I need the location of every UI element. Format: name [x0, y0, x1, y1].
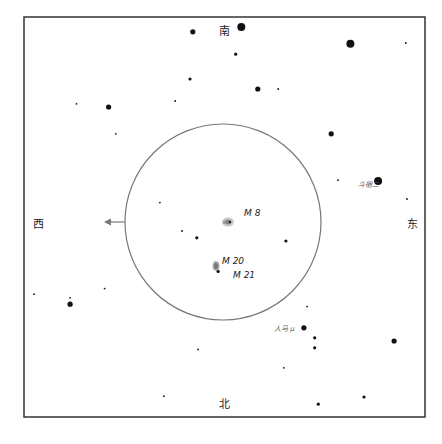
chart-frame: [24, 17, 425, 417]
direction-east: 东: [407, 218, 418, 231]
star: [237, 23, 245, 31]
star: [195, 236, 198, 239]
star: [329, 131, 334, 136]
star: [313, 336, 316, 339]
star: [159, 202, 161, 204]
star-label-sgr-mu: 人马 μ: [274, 325, 295, 333]
star: [313, 346, 316, 349]
star: [306, 306, 308, 308]
star: [188, 77, 191, 80]
direction-south: 南: [219, 25, 230, 38]
star: [181, 230, 183, 232]
direction-north: 北: [219, 398, 230, 411]
star: [406, 198, 408, 200]
star: [115, 133, 117, 135]
star: [190, 29, 195, 34]
m20-nebula: [213, 261, 220, 271]
star: [106, 104, 111, 109]
star-label-dou-su-er: 斗宿二: [358, 181, 380, 189]
star: [174, 100, 176, 102]
star: [69, 297, 71, 299]
star: [163, 395, 165, 397]
star: [337, 179, 339, 181]
star: [68, 302, 73, 307]
m21-label: M 21: [233, 270, 255, 280]
direction-west: 西: [33, 218, 44, 231]
star: [392, 338, 397, 343]
star-chart: M 8 M 20 M 21 斗宿二 人马 μ 南 北 西 东: [0, 0, 442, 444]
m20-label: M 20: [222, 256, 244, 266]
star: [234, 53, 237, 56]
star: [197, 349, 199, 351]
star: [362, 395, 365, 398]
m8-label: M 8: [244, 208, 261, 218]
star: [284, 239, 287, 242]
m8-nebula: [222, 218, 234, 227]
star: [277, 88, 279, 90]
star: [76, 103, 78, 105]
star: [104, 288, 106, 290]
star: [317, 403, 320, 406]
star: [33, 293, 35, 295]
star: [255, 86, 260, 91]
star: [346, 40, 354, 48]
star: [283, 367, 285, 369]
star-sgr-mu: [301, 325, 306, 330]
star: [405, 42, 407, 44]
